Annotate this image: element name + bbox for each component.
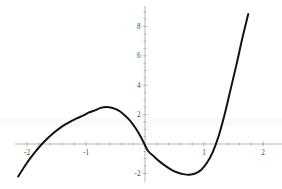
function-plot-svg: -2-112 -22468 bbox=[0, 0, 282, 189]
background-band bbox=[0, 118, 282, 127]
y-tick-label: 4 bbox=[137, 82, 141, 90]
x-tick-label: -2 bbox=[24, 149, 30, 157]
y-tick-label: 6 bbox=[137, 52, 141, 60]
x-tick-label: 1 bbox=[202, 149, 206, 157]
y-tick-label: 8 bbox=[137, 23, 141, 31]
x-tick-label: -1 bbox=[83, 149, 89, 157]
x-axis-tick-labels: -2-112 bbox=[24, 149, 265, 157]
y-axis-tick-labels: -22468 bbox=[135, 23, 141, 178]
chart-plot-area: -2-112 -22468 bbox=[0, 0, 282, 189]
y-tick-label: -2 bbox=[135, 170, 141, 178]
x-tick-label: 2 bbox=[261, 149, 265, 157]
y-tick-label: 2 bbox=[137, 111, 141, 119]
function-curve bbox=[18, 14, 248, 177]
